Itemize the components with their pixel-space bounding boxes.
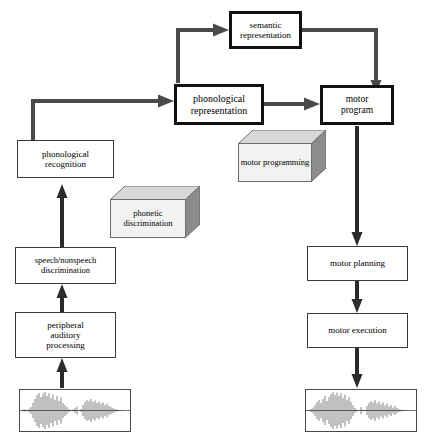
input-speech-waveform [19,389,131,432]
output-waveform-icon [306,390,416,431]
block-motor-programming[interactable]: motor programming [238,130,326,182]
node-motor-execution[interactable]: motor execution [307,313,408,348]
node-motor-program[interactable]: motor program [320,85,394,125]
arrow-motor-program-to-motor-planning [352,126,363,246]
node-motor-execution-label: motor execution [328,325,387,335]
node-peripheral-line2: auditory [46,330,85,340]
block-phonetic-discrimination-line1: phonetic [133,208,162,218]
connector-layer [0,0,431,446]
output-speech-waveform [305,389,417,432]
arrow-peripheral-to-speech-nonspeech [57,284,68,312]
node-semantic-representation-line2: representation [240,30,291,40]
arrow-motor-planning-to-motor-execution [352,281,363,313]
node-phonological-recognition-line2: recognition [42,159,89,169]
node-phonological-recognition-line1: phonological [42,149,89,159]
node-motor-planning[interactable]: motor planning [307,246,408,281]
block-phonetic-discrimination[interactable]: phonetic discrimination [110,186,200,238]
node-motor-planning-label: motor planning [330,258,385,268]
motor-programming-face: motor programming [238,143,312,182]
node-phonological-recognition[interactable]: phonological recognition [17,140,114,178]
node-speech-nonspeech-discrimination[interactable]: speech/nonspeech discrimination [15,247,116,284]
arrow-input-to-peripheral [57,358,68,388]
node-phonological-representation-line2: representation [191,105,248,116]
arrow-motor-execution-to-output-waveform [352,348,363,388]
speech-processing-diagram: phonological representation semantic rep… [0,0,431,446]
block-motor-programming-line2: programming [263,157,309,167]
arrow-speech-nonspeech-to-phonological-recognition [57,184,68,247]
block-phonetic-discrimination-line2: discrimination [123,218,172,228]
node-motor-program-line1: motor [341,94,373,105]
phonetic-discrimination-face: phonetic discrimination [110,199,186,238]
node-peripheral-auditory-processing[interactable]: peripheral auditory processing [15,312,116,358]
node-peripheral-line1: peripheral [46,320,85,330]
node-phonological-representation[interactable]: phonological representation [174,84,264,125]
arrow-phonological-recognition-to-phonological-representation [33,95,174,141]
node-speech-nonspeech-line2: discrimination [35,266,96,276]
block-motor-programming-line1: motor [241,157,261,167]
node-motor-program-line2: program [341,105,373,116]
node-semantic-representation[interactable]: semantic representation [229,11,302,49]
arrow-phonological-representation-to-semantic-representation [178,24,229,84]
node-peripheral-line3: processing [46,340,85,350]
node-semantic-representation-line1: semantic [240,20,291,30]
node-phonological-representation-line1: phonological [191,93,248,104]
input-waveform-icon [20,390,130,431]
